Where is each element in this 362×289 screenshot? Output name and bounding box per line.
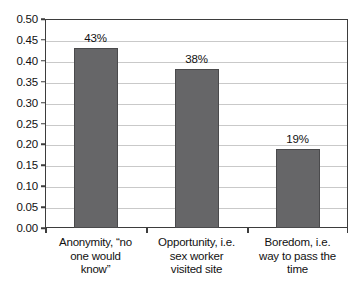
bar-value-label: 38% xyxy=(185,53,207,65)
bar-chart: 0.500.450.400.350.300.250.200.150.100.05… xyxy=(0,0,362,289)
y-axis-tick-label: 0.10 xyxy=(16,180,38,192)
bars-layer: 43%38%19% xyxy=(45,19,348,228)
bar-value-label: 19% xyxy=(286,133,308,145)
bar xyxy=(175,69,219,228)
category-label-line: Boredom, i.e. xyxy=(249,236,346,250)
x-axis-category-label: Anonymity, “noone wouldknow” xyxy=(45,236,146,288)
category-label-line: Opportunity, i.e. xyxy=(148,236,245,250)
category-label-line: time xyxy=(249,263,346,277)
x-axis-tick-mark xyxy=(45,228,47,233)
y-axis: 0.500.450.400.350.300.250.200.150.100.05… xyxy=(0,0,45,289)
y-axis-tick-label: 0.25 xyxy=(16,118,38,130)
y-axis-tick-label: 0.30 xyxy=(16,97,38,109)
category-label-line: visited site xyxy=(148,263,245,277)
category-label-line: one would xyxy=(47,250,144,264)
y-axis-tick-label: 0.00 xyxy=(16,222,38,234)
x-axis-tick-mark xyxy=(247,228,249,233)
category-label-line: know” xyxy=(47,263,144,277)
y-axis-tick-label: 0.20 xyxy=(16,138,38,150)
x-axis-tick-mark xyxy=(347,228,349,233)
y-axis-tick-label: 0.50 xyxy=(16,13,38,25)
bar xyxy=(74,48,118,228)
x-axis-category-labels: Anonymity, “noone wouldknow”Opportunity,… xyxy=(45,236,348,288)
x-axis-category-label: Boredom, i.e.way to pass thetime xyxy=(247,236,348,288)
y-axis-tick-label: 0.35 xyxy=(16,76,38,88)
y-axis-tick-label: 0.05 xyxy=(16,201,38,213)
y-axis-tick-label: 0.45 xyxy=(16,34,38,46)
category-label-line: Anonymity, “no xyxy=(47,236,144,250)
y-axis-tick-label: 0.40 xyxy=(16,55,38,67)
y-axis-tick-label: 0.15 xyxy=(16,159,38,171)
category-label-line: sex worker xyxy=(148,250,245,264)
bar-value-label: 43% xyxy=(84,32,106,44)
x-axis-tick-mark xyxy=(146,228,148,233)
x-axis-category-label: Opportunity, i.e.sex workervisited site xyxy=(146,236,247,288)
bar xyxy=(276,149,320,228)
category-label-line: way to pass the xyxy=(249,250,346,264)
